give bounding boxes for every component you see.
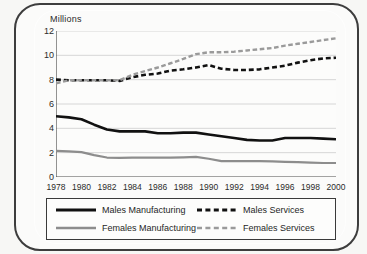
plot-svg: [56, 31, 336, 177]
legend-label: Males Manufacturing: [102, 205, 186, 215]
screenshot-root: Millions 024681012 197819801982198419861…: [0, 0, 367, 254]
y-axis-title: Millions: [50, 14, 82, 24]
y-axis-tick-label: 2: [49, 148, 54, 158]
plot-area: [56, 31, 336, 177]
legend-item[interactable]: Females Services: [196, 223, 331, 233]
x-axis-tick-label: 1998: [301, 182, 320, 192]
legend-item[interactable]: Females Manufacturing: [55, 223, 196, 233]
line-chart: Millions 024681012 197819801982198419861…: [20, 6, 352, 248]
x-axis-tick-labels: 1978198019821984198619881990199219941996…: [56, 182, 336, 196]
legend-label: Males Services: [243, 205, 304, 215]
y-axis-tick-label: 4: [49, 123, 54, 133]
x-axis-tick-label: 1996: [276, 182, 295, 192]
x-axis-tick-label: 1986: [148, 182, 167, 192]
y-axis-tick-label: 8: [49, 75, 54, 85]
legend-item[interactable]: Males Manufacturing: [55, 205, 196, 215]
y-axis-tick-label: 12: [44, 26, 54, 36]
y-axis-tick-label: 10: [44, 50, 54, 60]
series-line: [56, 38, 336, 83]
x-axis-tick-label: 2000: [327, 182, 346, 192]
x-axis-tick-label: 1990: [199, 182, 218, 192]
x-axis-tick-label: 1984: [123, 182, 142, 192]
chart-legend: Males ManufacturingMales ServicesFemales…: [46, 198, 336, 240]
x-axis-tick-label: 1994: [250, 182, 269, 192]
y-axis-tick-label: 0: [49, 172, 54, 182]
legend-swatch-icon: [196, 205, 238, 215]
legend-swatch-icon: [55, 205, 97, 215]
legend-swatch-icon: [196, 223, 238, 233]
x-axis-tick-label: 1992: [225, 182, 244, 192]
series-line: [56, 58, 336, 81]
legend-label: Females Services: [243, 223, 315, 233]
y-axis-tick-labels: 024681012: [34, 31, 54, 177]
legend-item[interactable]: Males Services: [196, 205, 331, 215]
x-axis-tick-label: 1982: [97, 182, 116, 192]
legend-label: Females Manufacturing: [102, 223, 196, 233]
x-axis-tick-label: 1980: [72, 182, 91, 192]
legend-swatch-icon: [55, 223, 97, 233]
y-axis-tick-label: 6: [49, 99, 54, 109]
x-axis-tick-label: 1978: [47, 182, 66, 192]
x-axis-tick-label: 1988: [174, 182, 193, 192]
